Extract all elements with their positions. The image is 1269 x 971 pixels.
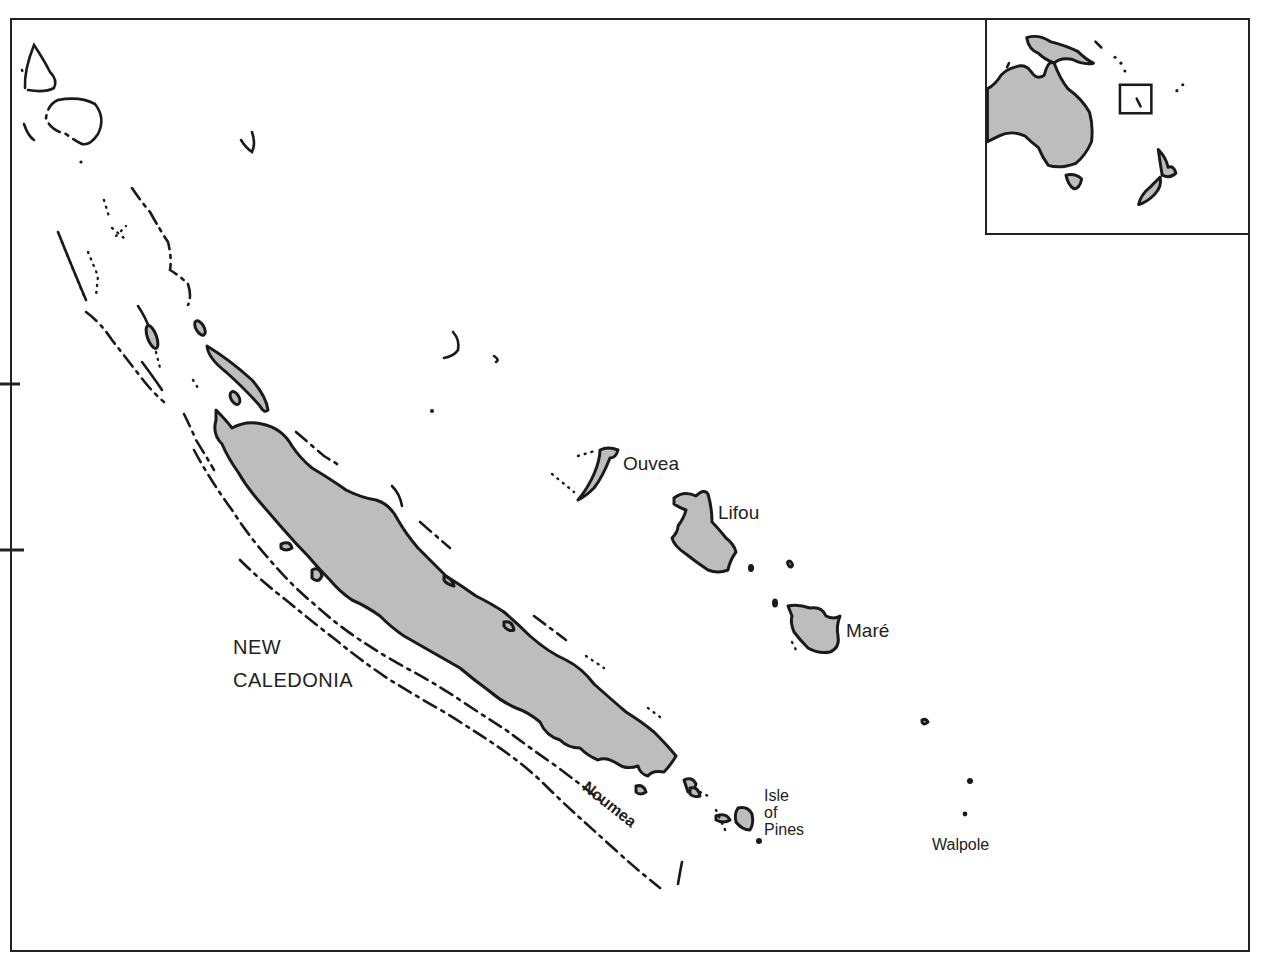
northern-reefs [22, 45, 254, 164]
walpole-group [922, 719, 973, 816]
australia [987, 62, 1092, 166]
isle-of-pines-group [684, 779, 762, 844]
lifou-label: Lifou [718, 502, 759, 524]
inset-locator-map [985, 18, 1250, 235]
new-guinea [1027, 36, 1094, 63]
tiga [787, 560, 793, 567]
new-zealand-north [1158, 150, 1176, 177]
mare-islet [774, 600, 777, 606]
inset-svg [987, 20, 1248, 233]
isle-of-pines-label-3: Pines [764, 822, 804, 837]
ouvea-label: Ouvea [623, 453, 679, 475]
ouvea [552, 448, 618, 500]
central-reefs [430, 332, 498, 413]
mare [788, 605, 840, 652]
country-label-line2: CALEDONIA [233, 669, 353, 692]
country-label-line1: NEW [233, 636, 281, 659]
mare-label: Maré [846, 620, 889, 642]
walpole-label: Walpole [932, 836, 989, 854]
isle-of-pines-label-2: of [764, 805, 777, 820]
isle-of-pines-label-1: Isle [764, 788, 789, 803]
lifou-islet [750, 566, 753, 571]
new-zealand-south [1139, 177, 1161, 204]
tasmania [1066, 175, 1082, 189]
